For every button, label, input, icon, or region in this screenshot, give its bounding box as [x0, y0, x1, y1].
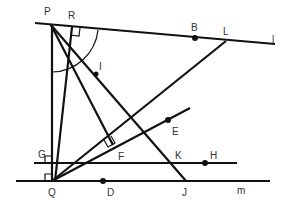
point-h-dot — [202, 160, 208, 166]
point-b-dot — [192, 35, 198, 41]
label-e: E — [172, 126, 179, 137]
point-d-dot — [100, 178, 106, 184]
label-r: R — [68, 10, 75, 21]
label-h: H — [210, 150, 217, 161]
label-d: D — [107, 187, 114, 198]
label-line-m: m — [237, 185, 245, 196]
label-k: K — [175, 150, 182, 161]
angle-arc — [52, 30, 98, 72]
label-g: G — [38, 149, 46, 160]
point-e-dot — [165, 117, 171, 123]
label-p: P — [44, 6, 51, 17]
point-i-dot — [94, 72, 99, 77]
label-f: F — [118, 151, 124, 162]
label-j: J — [182, 187, 187, 198]
label-b: B — [191, 22, 198, 33]
label-i: I — [99, 61, 102, 72]
label-q: Q — [48, 187, 56, 198]
label-l-point: L — [223, 26, 229, 37]
segment-ql — [52, 41, 226, 181]
label-line-l: l — [272, 34, 274, 45]
geometry-diagram: P R B L l I E F G K H Q D J m — [0, 0, 291, 206]
